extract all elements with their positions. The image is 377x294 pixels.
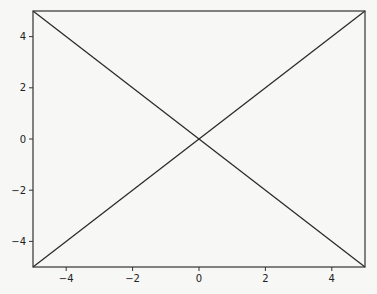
line-chart: −4−2024 −4−2024 — [0, 0, 377, 294]
y-tick-label: 4 — [20, 31, 26, 42]
series-layer — [33, 11, 365, 267]
plot-area — [33, 11, 365, 267]
y-tick-label: −2 — [11, 185, 26, 196]
y-axis: −4−2024 — [11, 31, 33, 247]
x-tick-label: 2 — [262, 273, 268, 284]
y-tick-label: −4 — [11, 236, 26, 247]
x-tick-label: 4 — [329, 273, 335, 284]
x-tick-label: −4 — [59, 273, 74, 284]
x-tick-label: −2 — [125, 273, 140, 284]
x-tick-label: 0 — [196, 273, 202, 284]
y-tick-label: 2 — [20, 82, 26, 93]
x-axis: −4−2024 — [59, 267, 335, 284]
y-tick-label: 0 — [20, 134, 26, 145]
